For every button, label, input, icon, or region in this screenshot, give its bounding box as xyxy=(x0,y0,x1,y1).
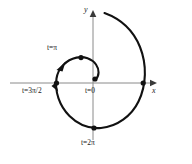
marker-label-t0: t=0 xyxy=(85,87,95,95)
marker-label-t-pi: t=π xyxy=(47,44,57,52)
y-axis-arrow-icon xyxy=(90,10,97,17)
marker-label-t-2pi: t=2π xyxy=(81,139,95,147)
x-axis-label: x xyxy=(152,87,156,95)
parametric-spiral-figure: y x t=π t=3π/2 t=0 t=2π xyxy=(0,0,192,164)
plot-canvas xyxy=(0,0,192,164)
marker-dot-t0 xyxy=(92,76,97,81)
marker-dot-t-2pi xyxy=(91,125,96,130)
marker-dot-t-pi xyxy=(78,55,83,60)
marker-label-t-3pi-2: t=3π/2 xyxy=(22,87,42,95)
marker-dot-outer-x-axis xyxy=(141,80,146,85)
y-axis-label: y xyxy=(84,6,88,14)
marker-dot-t-3pi-2 xyxy=(54,80,59,85)
spiral-curve xyxy=(56,13,145,128)
direction-arrow-inner-icon xyxy=(57,62,66,72)
